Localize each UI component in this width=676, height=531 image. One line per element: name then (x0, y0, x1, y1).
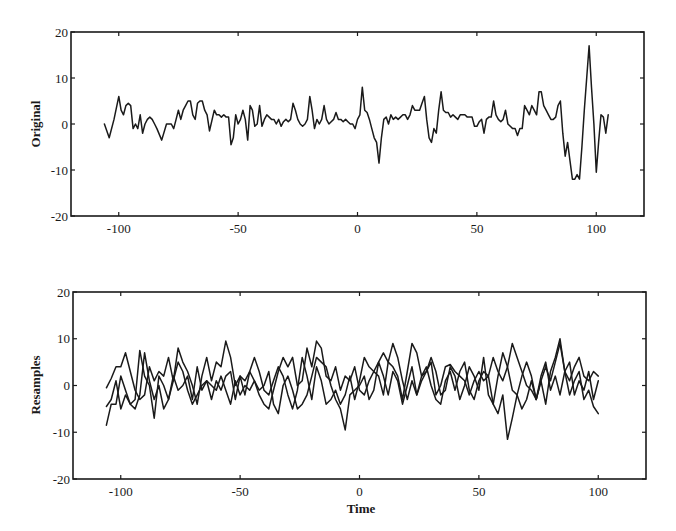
series-resamples (106, 339, 598, 440)
y-tick-label: -10 (53, 425, 70, 440)
x-tick-label: 0 (356, 484, 363, 499)
x-tick-label: -50 (229, 221, 246, 236)
y-tick-label: 10 (55, 71, 68, 86)
x-tick-label: 100 (587, 221, 607, 236)
series-original (104, 46, 608, 179)
tick-labels: -100-50050100-20-1001020 (51, 25, 606, 237)
figure: -100-50050100-20-1001020 Original -100-5… (0, 0, 676, 531)
tick-marks (71, 32, 644, 216)
x-axis-label: Time (347, 501, 376, 516)
y-tick-label: -20 (51, 209, 68, 224)
y-tick-label: -10 (51, 163, 68, 178)
x-tick-label: -100 (107, 221, 131, 236)
x-tick-label: 50 (470, 221, 483, 236)
x-tick-label: 100 (589, 484, 609, 499)
y-axis-label: Original (28, 100, 43, 147)
plot-frame (71, 32, 644, 216)
y-tick-label: 0 (64, 378, 71, 393)
x-tick-label: 50 (472, 484, 485, 499)
series-line (104, 46, 608, 179)
x-tick-label: 0 (354, 221, 361, 236)
y-tick-label: 0 (62, 117, 69, 132)
y-tick-label: -20 (53, 472, 70, 487)
y-tick-label: 20 (55, 25, 68, 40)
panel-resamples: -100-50050100-20-1001020 Resamples Time (28, 285, 646, 517)
y-tick-label: 20 (57, 285, 70, 300)
y-axis-label: Resamples (28, 355, 43, 414)
series-line (106, 341, 598, 409)
x-tick-label: -100 (109, 484, 133, 499)
panel-original: -100-50050100-20-1001020 Original (28, 25, 644, 237)
x-tick-label: -50 (231, 484, 248, 499)
y-tick-label: 10 (57, 331, 70, 346)
